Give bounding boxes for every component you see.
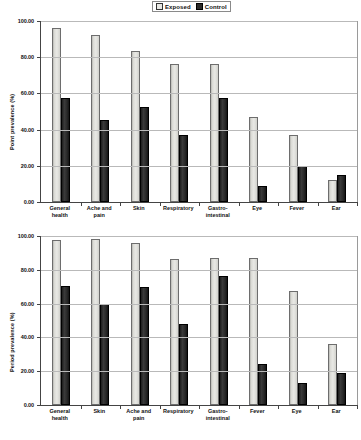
gridline: [41, 304, 357, 305]
bar-exposed: [131, 243, 140, 405]
bar-control: [61, 98, 70, 202]
x-axis-label: Eye: [238, 205, 278, 219]
bar-control: [100, 120, 109, 202]
bar-group: [318, 236, 358, 405]
x-axis-label: Respiratory: [159, 408, 199, 422]
y-axis-tick: [37, 21, 41, 22]
x-axis-label: General health: [40, 408, 80, 422]
bar-control: [337, 175, 346, 202]
bar-control: [298, 166, 307, 202]
gridline: [41, 57, 357, 58]
x-axis-labels-top: General healthAche and painSkinRespirato…: [40, 205, 356, 219]
gridline: [41, 371, 357, 372]
bar-control: [298, 383, 307, 405]
bar-exposed: [210, 258, 219, 405]
y-axis-tick-label: 60.00: [0, 90, 34, 96]
y-axis-tick-label: 0.00: [0, 199, 34, 205]
y-axis-tick: [37, 304, 41, 305]
bar-series-group-bottom: [41, 236, 357, 405]
chart-period-prevalence: Period prevalence (%) 0.0020.0040.0060.0…: [0, 220, 361, 440]
y-axis-tick: [37, 93, 41, 94]
y-axis-tick-label: 40.00: [0, 334, 34, 340]
plot-frame-right: [357, 236, 358, 405]
bar-control: [179, 135, 188, 202]
bar-group: [239, 21, 279, 202]
x-axis-label: Ear: [317, 408, 357, 422]
y-axis-tick: [37, 166, 41, 167]
bar-group: [160, 236, 200, 405]
bar-group: [81, 21, 121, 202]
plot-frame-right: [357, 21, 358, 202]
plot-area-bottom: [40, 236, 357, 406]
y-axis-tick-label: 40.00: [0, 127, 34, 133]
y-axis-tick: [37, 202, 41, 203]
bar-exposed: [289, 135, 298, 202]
bar-group: [41, 236, 81, 405]
gridline: [41, 21, 357, 22]
bar-control: [337, 373, 346, 405]
y-axis-tick: [37, 270, 41, 271]
y-axis-tick: [37, 405, 41, 406]
chart-point-prevalence: Point prevalence (%) 0.0020.0040.0060.00…: [0, 0, 361, 220]
x-axis-label: Eye: [277, 408, 317, 422]
x-axis-label: Ache and pain: [80, 205, 120, 219]
x-axis-tick: [357, 405, 358, 409]
x-axis-label: Ear: [317, 205, 357, 219]
bar-control: [219, 276, 228, 405]
bar-exposed: [131, 51, 140, 202]
gridline: [41, 337, 357, 338]
bar-exposed: [91, 239, 100, 405]
y-axis-tick: [37, 236, 41, 237]
bar-control: [100, 304, 109, 405]
gridline: [41, 130, 357, 131]
bar-exposed: [249, 258, 258, 405]
figure-root: Exposed Control Point prevalence (%) 0.0…: [0, 0, 361, 440]
plot-area-top: [40, 21, 357, 203]
bar-group: [278, 21, 318, 202]
y-axis-tick-label: 20.00: [0, 368, 34, 374]
x-axis-tick: [357, 202, 358, 206]
x-axis-label: Fever: [238, 408, 278, 422]
bar-group: [199, 21, 239, 202]
bar-group: [41, 21, 81, 202]
bar-control: [258, 186, 267, 202]
x-axis-label: Skin: [80, 408, 120, 422]
x-axis-label: Ache and pain: [119, 408, 159, 422]
y-axis-tick-label: 20.00: [0, 163, 34, 169]
gridline: [41, 236, 357, 237]
y-axis-tick-label: 60.00: [0, 301, 34, 307]
bar-control: [219, 98, 228, 202]
y-axis-tick: [37, 337, 41, 338]
bar-group: [318, 21, 358, 202]
bar-exposed: [91, 35, 100, 202]
x-axis-label: Gastro- intestinal: [198, 205, 238, 219]
gridline: [41, 93, 357, 94]
y-axis-label-bottom: Period prevalence (%): [9, 312, 15, 372]
bar-exposed: [210, 64, 219, 202]
bar-group: [120, 21, 160, 202]
y-axis-tick-label: 0.00: [0, 402, 34, 408]
bar-control: [140, 107, 149, 202]
y-axis-label-top: Point prevalence (%): [9, 94, 15, 150]
x-axis-label: Respiratory: [159, 205, 199, 219]
bar-group: [160, 21, 200, 202]
y-axis-tick-label: 100.00: [0, 18, 34, 24]
bar-series-group-top: [41, 21, 357, 202]
y-axis-tick: [37, 130, 41, 131]
x-axis-labels-bottom: General healthSkinAche and painRespirato…: [40, 408, 356, 422]
bar-group: [120, 236, 160, 405]
gridline: [41, 270, 357, 271]
gridline: [41, 166, 357, 167]
x-axis-label: Gastro- intestinal: [198, 408, 238, 422]
bar-exposed: [52, 28, 61, 202]
x-axis-label: General health: [40, 205, 80, 219]
bar-exposed: [289, 291, 298, 405]
bar-group: [239, 236, 279, 405]
y-axis-tick-label: 80.00: [0, 54, 34, 60]
bar-exposed: [52, 240, 61, 405]
y-axis-tick-label: 80.00: [0, 267, 34, 273]
bar-exposed: [328, 344, 337, 405]
x-axis-label: Skin: [119, 205, 159, 219]
bar-group: [199, 236, 239, 405]
bar-group: [278, 236, 318, 405]
